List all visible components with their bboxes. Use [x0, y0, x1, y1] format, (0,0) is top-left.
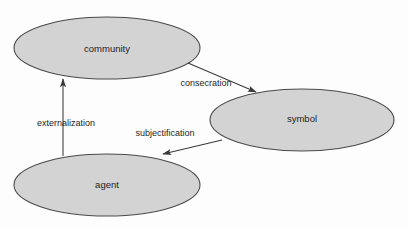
edge-consecration: consecration — [180, 63, 256, 92]
edge-externalization: externalization — [37, 79, 95, 156]
node-agent[interactable]: agent — [14, 154, 200, 216]
node-community[interactable]: community — [14, 17, 200, 79]
node-symbol[interactable]: symbol — [210, 89, 394, 151]
edge-label-externalization: externalization — [37, 118, 95, 128]
edge-label-subjectification: subjectification — [135, 128, 194, 138]
concept-diagram: externalization subjectification communi… — [0, 0, 408, 228]
node-label-agent: agent — [95, 179, 119, 190]
edge-subjectification-line — [163, 140, 222, 154]
diagram-canvas: externalization subjectification communi… — [0, 0, 408, 228]
node-label-symbol: symbol — [287, 113, 317, 124]
edge-subjectification: subjectification — [135, 128, 222, 154]
node-label-community: community — [84, 43, 130, 54]
edge-label-consecration: consecration — [180, 78, 231, 88]
